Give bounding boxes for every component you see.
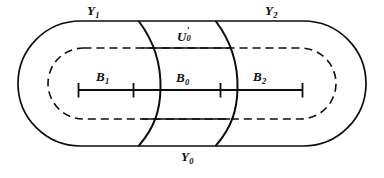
label-y0: Y0 <box>181 148 193 164</box>
label-y1-base: Y <box>87 3 95 18</box>
label-u0-prime-sub-stack: ′0 <box>186 28 192 41</box>
topology-diagram-figure: Y1 Y2 U′0 B1 B0 B2 Y0 <box>0 0 384 178</box>
label-u0-base: U <box>177 29 186 44</box>
label-u0-sub: 0 <box>186 34 190 43</box>
label-y2-base: Y <box>265 3 273 18</box>
label-y0-sub: 0 <box>189 156 193 166</box>
label-b2: B2 <box>253 68 266 84</box>
label-b0-sub: 0 <box>185 77 189 87</box>
label-y0-base: Y <box>181 149 189 164</box>
label-b1-base: B <box>96 69 105 84</box>
label-b1-sub: 1 <box>105 76 109 86</box>
label-u0-prime: U′0 <box>177 28 192 44</box>
label-y1: Y1 <box>87 2 99 18</box>
label-b2-sub: 2 <box>262 76 266 86</box>
label-y2: Y2 <box>265 2 277 18</box>
label-y1-sub: 1 <box>95 10 99 20</box>
label-b1: B1 <box>96 68 109 84</box>
label-b0-base: B <box>176 70 185 85</box>
label-b0: B0 <box>176 69 189 85</box>
label-y2-sub: 2 <box>273 10 277 20</box>
label-b2-base: B <box>253 69 262 84</box>
